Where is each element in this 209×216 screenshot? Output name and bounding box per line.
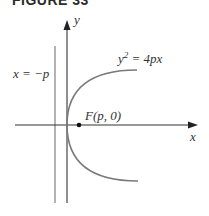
- focus-label: F(p, 0): [84, 108, 121, 123]
- directrix-label: x = −p: [12, 66, 50, 81]
- x-axis-label: x: [189, 129, 196, 144]
- equation-label: y2 = 4px: [116, 50, 163, 66]
- y-axis-arrow-icon: [64, 20, 71, 30]
- parabola-diagram: y x x = −p y2 = 4px F(p, 0): [0, 0, 209, 216]
- y-axis-label: y: [72, 12, 80, 27]
- focus-point: [77, 123, 82, 128]
- x-axis-arrow-icon: [188, 122, 198, 129]
